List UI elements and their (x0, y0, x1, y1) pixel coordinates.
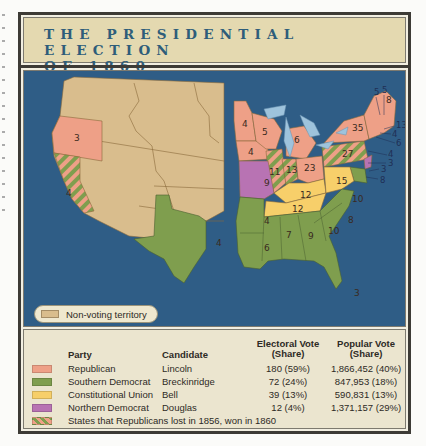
map-figure: THE PRESIDENTIAL ELECTION OF 1860 (18, 12, 411, 434)
svg-text:6: 6 (294, 135, 300, 145)
legend-row-republican: Republican Lincoln 180 (59%) 1,866,452 (… (24, 363, 405, 376)
header-candidate: Candidate (162, 350, 208, 360)
svg-text:7: 7 (286, 230, 292, 240)
svg-text:4: 4 (248, 147, 254, 157)
svg-text:3: 3 (388, 158, 393, 168)
svg-text:4: 4 (66, 188, 72, 198)
divider (21, 65, 408, 68)
header-electoral: Electoral Vote (Share) (252, 339, 324, 359)
svg-text:5: 5 (374, 87, 379, 97)
svg-text:9: 9 (308, 231, 314, 241)
svg-text:13: 13 (396, 120, 406, 130)
svg-text:5: 5 (382, 85, 387, 95)
non-voting-label: Non-voting territory (66, 309, 147, 320)
southern-democrat-swatch (32, 378, 52, 386)
svg-text:35: 35 (352, 123, 363, 133)
svg-text:11: 11 (269, 167, 280, 177)
header-party: Party (68, 350, 92, 360)
svg-text:12: 12 (300, 190, 311, 200)
svg-text:6: 6 (264, 243, 270, 253)
svg-text:8: 8 (386, 95, 392, 105)
svg-text:23: 23 (304, 163, 315, 173)
svg-text:5: 5 (262, 127, 268, 137)
svg-text:4: 4 (264, 216, 270, 226)
svg-text:13: 13 (286, 165, 297, 175)
svg-text:15: 15 (336, 176, 347, 186)
territory-swatch (41, 310, 59, 318)
adjacent-page-edge (0, 14, 8, 222)
svg-text:10: 10 (328, 226, 340, 236)
constitutional-union-swatch (32, 391, 52, 399)
svg-text:8: 8 (380, 175, 385, 185)
legend-row-southern-democrat: Southern Democrat Breckinridge 72 (24%) … (24, 376, 405, 389)
legend-row-constitutional-union: Constitutional Union Bell 39 (13%) 590,8… (24, 389, 405, 402)
svg-text:3: 3 (354, 288, 360, 298)
title-line-1: THE PRESIDENTIAL ELECTION (44, 26, 405, 58)
svg-text:3: 3 (74, 133, 80, 143)
results-legend: Party Candidate Electoral Vote (Share) P… (23, 329, 406, 429)
election-map: 3 4 4 5 6 4 11 13 23 27 35 5 5 8 13 4 6 … (23, 70, 406, 327)
legend-row-flipped-states: States that Republicans lost in 1856, wo… (24, 415, 405, 428)
svg-text:6: 6 (396, 138, 401, 148)
legend-row-northern-democrat: Northern Democrat Douglas 12 (4%) 1,371,… (24, 402, 405, 415)
non-voting-territory-legend: Non-voting territory (34, 305, 158, 323)
svg-text:3: 3 (381, 164, 386, 174)
svg-text:10: 10 (352, 194, 364, 204)
svg-text:27: 27 (342, 149, 353, 159)
header-popular: Popular Vote (Share) (324, 339, 408, 359)
svg-text:8: 8 (348, 215, 354, 225)
svg-text:9: 9 (264, 178, 270, 188)
title-panel: THE PRESIDENTIAL ELECTION OF 1860 (23, 17, 406, 63)
northern-democrat-swatch (32, 404, 52, 412)
svg-text:12: 12 (292, 204, 303, 214)
svg-text:4: 4 (242, 119, 248, 129)
us-map-svg: 3 4 4 5 6 4 11 13 23 27 35 5 5 8 13 4 6 … (24, 71, 406, 327)
svg-text:4: 4 (216, 238, 222, 248)
republican-swatch (32, 365, 52, 373)
striped-swatch (32, 417, 52, 425)
